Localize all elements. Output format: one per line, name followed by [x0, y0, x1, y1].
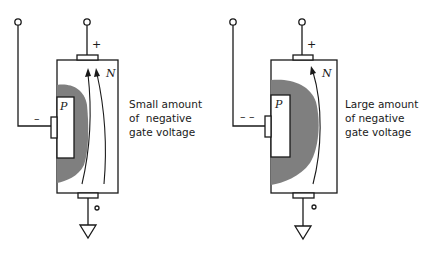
ground-icon [80, 225, 96, 238]
drain-terminal [299, 19, 305, 25]
source-contact [78, 193, 98, 198]
caption-line-1: Small amount [129, 98, 202, 110]
caption-large: Large amount of negative gate voltage [345, 98, 418, 138]
n-label: N [321, 67, 332, 80]
diagram-small-gate-voltage: + P – N Small amount of negative gate vo… [15, 19, 202, 238]
diagram-large-gate-voltage: + P – – N Large amount of negative gate … [230, 19, 419, 239]
gate-contact [51, 117, 57, 138]
gate-terminal [15, 19, 21, 25]
caption-line-1: Large amount [345, 98, 418, 110]
caption-line-2: of negative [345, 112, 404, 124]
gate-terminal [230, 19, 236, 25]
source-contact [293, 193, 314, 198]
source-terminal-dot [312, 205, 316, 209]
caption-small: Small amount of negative gate voltage [129, 98, 202, 138]
drain-polarity-label: + [92, 38, 101, 51]
drain-contact [77, 55, 98, 60]
gate-contact [265, 116, 271, 137]
caption-line-3: gate voltage [345, 126, 411, 138]
gate-polarity-label: – [34, 112, 40, 125]
drain-polarity-label: + [307, 38, 316, 51]
drain-contact [293, 55, 313, 60]
caption-line-2: of negative [129, 112, 192, 124]
p-label: P [59, 100, 68, 113]
p-label: P [274, 98, 283, 111]
source-terminal-dot [95, 206, 99, 210]
caption-line-3: gate voltage [129, 126, 195, 138]
gate-polarity-label: – – [240, 110, 255, 123]
gate-wire [18, 25, 51, 126]
ground-icon [295, 226, 311, 239]
n-label: N [105, 67, 116, 80]
jfet-figure: + P – N Small amount of negative gate vo… [0, 0, 425, 253]
drain-terminal [84, 19, 90, 25]
